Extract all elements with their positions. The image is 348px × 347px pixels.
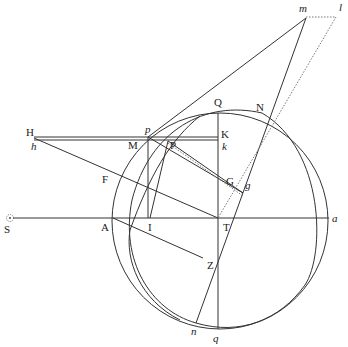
geometry-drawing xyxy=(0,0,348,347)
label-g: g xyxy=(245,180,251,191)
label-Q: Q xyxy=(214,97,222,108)
label-S: S xyxy=(4,224,10,235)
diagram-canvas: S H h p M P K k Q N m l F G g A I T a Z … xyxy=(0,0,348,347)
label-a: a xyxy=(332,213,338,224)
line-m-n xyxy=(196,18,306,323)
label-I: I xyxy=(148,222,152,233)
dotted-l-T xyxy=(218,17,336,218)
line-m-p xyxy=(148,18,306,137)
label-n: n xyxy=(191,326,197,337)
label-T: T xyxy=(223,222,230,233)
line-P-I xyxy=(150,141,168,218)
label-h: h xyxy=(31,141,37,152)
label-m: m xyxy=(299,3,307,14)
sun-dot xyxy=(9,217,11,219)
label-p: p xyxy=(145,124,151,135)
label-Z: Z xyxy=(207,260,214,271)
dotted-P-g xyxy=(168,143,243,196)
label-H: H xyxy=(26,127,34,138)
line-H-T xyxy=(34,138,218,218)
label-F: F xyxy=(102,174,108,185)
label-G: G xyxy=(226,176,234,187)
label-N: N xyxy=(256,102,264,113)
label-M: M xyxy=(128,140,138,151)
label-P: P xyxy=(170,140,176,151)
label-k: k xyxy=(222,141,227,152)
line-A-Z xyxy=(113,218,203,258)
label-A: A xyxy=(101,222,109,233)
label-q: q xyxy=(213,333,219,344)
label-l: l xyxy=(339,2,342,13)
label-K: K xyxy=(221,129,229,140)
